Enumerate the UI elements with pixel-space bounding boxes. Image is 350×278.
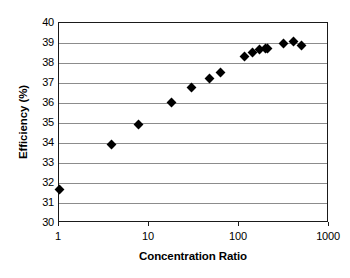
- y-axis-tick-label: 35: [30, 117, 54, 128]
- y-axis-tick-label: 34: [30, 137, 54, 148]
- gridline: [59, 103, 327, 104]
- x-axis-tick-label: 10: [125, 231, 171, 242]
- gridline: [59, 63, 327, 64]
- data-point: [106, 139, 116, 149]
- y-axis-tick-label: 31: [30, 197, 54, 208]
- x-axis-tick-mark: [328, 222, 329, 226]
- gridline: [59, 163, 327, 164]
- y-axis-title: Efficiency (%): [17, 52, 29, 192]
- figure-caption: [0, 268, 350, 278]
- y-axis-tick-label: 38: [30, 57, 54, 68]
- gridline: [59, 123, 327, 124]
- x-axis-title: Concentration Ratio: [58, 250, 328, 262]
- data-point: [54, 184, 64, 194]
- data-point: [278, 38, 288, 48]
- y-axis-tick-label: 39: [30, 37, 54, 48]
- plot-area: [58, 22, 328, 222]
- y-axis-tick-label: 32: [30, 177, 54, 188]
- x-axis-tick-label: 1000: [305, 231, 350, 242]
- y-axis-tick-label: 37: [30, 77, 54, 88]
- gridline: [59, 203, 327, 204]
- x-axis-tick-marks: [0, 222, 350, 228]
- y-axis-tick-label: 36: [30, 97, 54, 108]
- gridline: [59, 143, 327, 144]
- x-axis-tick-label: 100: [215, 231, 261, 242]
- x-axis-tick-mark: [238, 222, 239, 226]
- data-point: [297, 40, 307, 50]
- gridline: [59, 183, 327, 184]
- data-point: [215, 67, 225, 77]
- x-axis-tick-mark: [58, 222, 59, 226]
- y-axis-tick-label: 40: [30, 17, 54, 28]
- chart-figure: 3031323334353637383940 1101001000 Concen…: [0, 0, 350, 278]
- x-axis-tick-mark: [148, 222, 149, 226]
- x-axis-tick-label: 1: [35, 231, 81, 242]
- x-axis-tick-labels: 1101001000: [0, 231, 350, 245]
- y-axis-tick-label: 33: [30, 157, 54, 168]
- data-point: [133, 119, 143, 129]
- data-point: [167, 97, 177, 107]
- data-point: [205, 73, 215, 83]
